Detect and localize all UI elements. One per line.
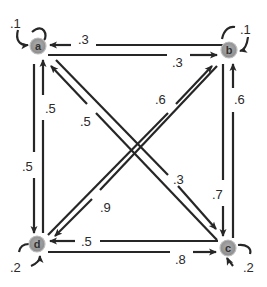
prob-label-c-d: .5 [81, 234, 92, 249]
prob-label-a-c: .3 [173, 172, 184, 187]
svg-text:c: c [225, 242, 231, 254]
markov-chain-diagram: a b c d .1 .1 .2 .2 .3 .3 .5 .5 .7 .6 .5… [0, 0, 267, 287]
prob-label-c-b: .6 [234, 92, 245, 107]
edge-b-to-d [55, 66, 217, 236]
node-c: c [220, 240, 236, 256]
prob-label-b-c: .7 [212, 187, 223, 202]
prob-label-c-a: .5 [80, 114, 91, 129]
node-a: a [30, 38, 46, 54]
prob-label-a-a: .1 [10, 16, 21, 31]
svg-text:a: a [35, 40, 42, 52]
svg-text:b: b [226, 44, 233, 56]
prob-label-c-c: .2 [243, 260, 254, 275]
prob-label-b-a: .3 [78, 32, 89, 47]
svg-text:d: d [34, 238, 41, 250]
self-loop-b [222, 27, 235, 39]
prob-label-b-b: .1 [240, 22, 251, 37]
prob-label-d-d: .2 [10, 260, 21, 275]
prob-label-d-b: .6 [155, 92, 166, 107]
prob-label-b-d: .9 [100, 200, 111, 215]
node-b: b [221, 42, 237, 58]
prob-label-a-d: .5 [22, 159, 33, 174]
prob-label-d-a: .5 [45, 101, 56, 116]
prob-label-a-b: .3 [172, 55, 183, 70]
prob-label-d-c: .8 [175, 252, 186, 267]
self-loop-c [238, 245, 250, 254]
self-loop-d [19, 244, 29, 252]
node-d: d [29, 236, 45, 252]
